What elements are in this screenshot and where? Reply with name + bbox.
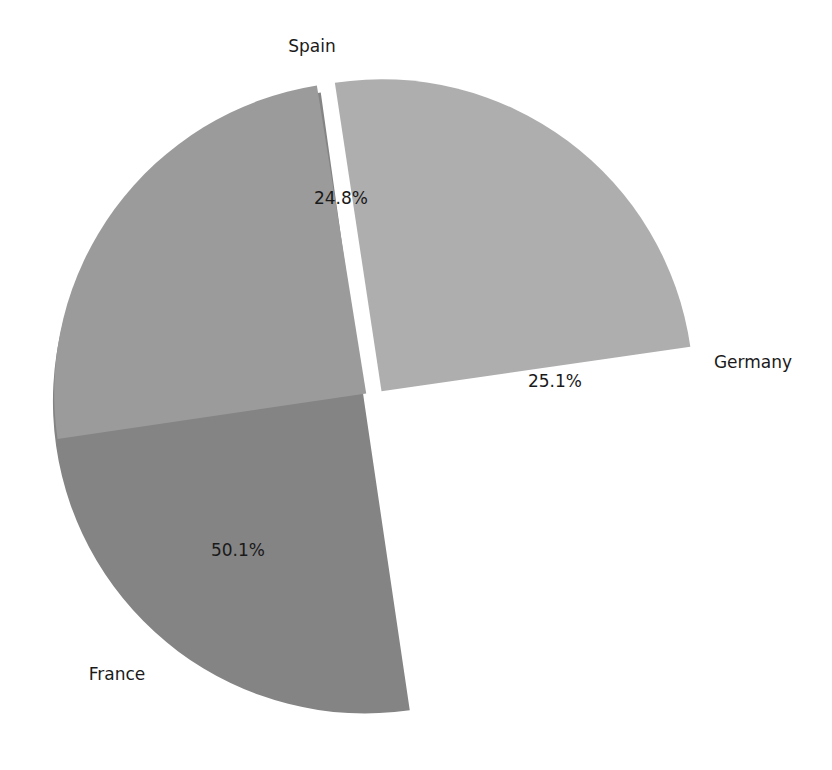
pie-category-label-france: France — [89, 664, 146, 684]
pie-category-label-germany: Germany — [714, 352, 792, 372]
pie-chart-canvas: 50.1%25.1%24.8% FranceGermanySpain — [0, 0, 832, 770]
pie-percent-label-spain: 24.8% — [314, 188, 368, 208]
pie-percent-label-france: 50.1% — [211, 540, 265, 560]
pie-category-label-spain: Spain — [288, 36, 336, 56]
pie-percent-label-germany: 25.1% — [528, 371, 582, 391]
pie-chart-figure: 50.1%25.1%24.8% FranceGermanySpain — [0, 0, 832, 770]
